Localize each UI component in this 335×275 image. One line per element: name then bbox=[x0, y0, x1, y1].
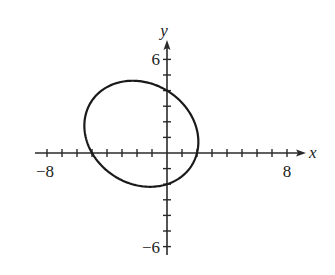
x-tick-label-max: 8 bbox=[283, 162, 292, 181]
x-axis-label: x bbox=[308, 143, 317, 162]
y-tick-label-min: −6 bbox=[142, 238, 160, 257]
x-tick-label-min: −8 bbox=[36, 162, 54, 181]
axes bbox=[35, 40, 306, 255]
ellipse-graph: x y −8 8 6 −6 bbox=[0, 0, 335, 275]
y-axis-label: y bbox=[158, 21, 168, 40]
y-tick-label-max: 6 bbox=[152, 50, 161, 69]
ellipse-curve bbox=[84, 81, 198, 187]
